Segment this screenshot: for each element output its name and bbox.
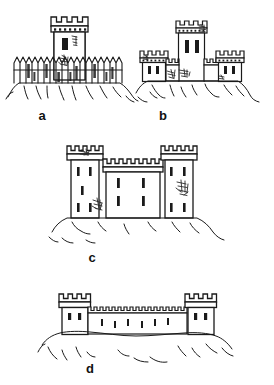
panel-c-central-corbel [103,167,163,172]
panel-b-left-shaft [143,63,166,82]
panel-d-left-tower [59,294,91,335]
panel-d-label: d [86,361,94,376]
panel-d-right-shaft [188,308,214,335]
panel-c-right-corbel [161,154,197,160]
panel-b-central-shaft [179,33,205,81]
panel-b-curtain-right-wall [204,65,219,81]
panel-c-left-shaft [71,160,99,218]
panel-d-left-corbel [59,302,91,308]
panel-b-label: b [159,108,167,123]
panel-d-right-corbel [185,302,217,308]
castle-evolution-diagram: a [0,0,274,385]
panel-b-left-window-2 [156,66,159,74]
panel-c-central-block [103,159,163,218]
panel-c-right-tower [161,146,197,218]
panel-d-curtain-merlons [88,307,187,313]
panel-c-right-shaft [165,160,193,218]
panel-c-left-tower [67,146,103,218]
panel-a-label: a [38,108,46,123]
panel-b-left-tower [140,51,168,82]
panel-d-curtain-wall [88,307,187,334]
panel-d-right-tower [185,294,217,335]
panel-c-central-shaft [106,172,160,218]
panel-b-right-tower [216,51,244,82]
panel-b-left-window-1 [148,66,151,74]
panel-a-window [62,38,68,50]
panel-c-label: c [88,250,95,265]
figure-root: a [0,0,274,385]
panel-b-central-window-2 [195,40,199,53]
panel-b-central-window-1 [185,40,189,53]
panel-b-right-window-2 [232,66,235,74]
panel-b-right-window-1 [224,66,227,74]
panel-d-left-shaft [62,308,88,335]
panel-b-central-keep [176,21,207,81]
